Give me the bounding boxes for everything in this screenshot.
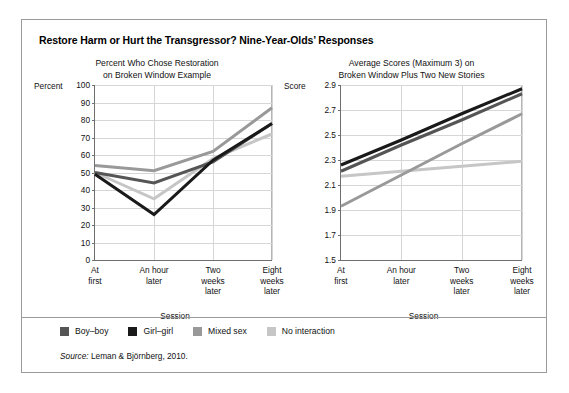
y-axis-tick: 30 [81, 203, 95, 213]
x-axis-tick-line: later [436, 286, 488, 297]
legend-label: Boy–boy [75, 326, 108, 336]
plot-area-right: 1.51.71.92.12.32.52.72.9AtfirstAn hourla… [340, 85, 522, 261]
gridline-vertical [522, 85, 523, 260]
y-axis-label-right: Score [284, 81, 306, 91]
x-axis-tick-line: Two [436, 265, 488, 276]
x-axis-tick-line: Eight [496, 265, 548, 276]
y-axis-tick: 80 [81, 115, 95, 125]
series-line [341, 161, 522, 176]
x-axis-tick-line: later [496, 286, 548, 297]
x-axis-tick: Atfirst [315, 260, 367, 286]
chart-title-right-line1: Average Scores (Maximum 3) on [284, 58, 539, 70]
y-axis-tick: 100 [76, 80, 95, 90]
y-axis-tick: 40 [81, 185, 95, 195]
y-axis-tick: 60 [81, 150, 95, 160]
legend-label: No interaction [282, 326, 335, 336]
x-axis-tick-line: An hour [375, 265, 427, 276]
legend-swatch-icon [193, 327, 202, 336]
gridline-vertical [272, 85, 273, 260]
x-axis-tick-line: later [128, 276, 180, 287]
y-axis-tick: 90 [81, 98, 95, 108]
x-axis-tick-line: At [69, 265, 121, 276]
y-axis-label-left: Percent [34, 81, 63, 91]
source-text: Leman & Björnberg, 2010. [91, 351, 188, 361]
y-axis-tick: 2.5 [324, 130, 341, 140]
figure-frame: Restore Harm or Hurt the Transgressor? N… [21, 19, 547, 373]
figure-title: Restore Harm or Hurt the Transgressor? N… [39, 34, 373, 46]
legend-item: Girl–girl [128, 326, 173, 336]
source-note: Source: Leman & Björnberg, 2010. [60, 351, 188, 361]
x-axis-tick: Atfirst [69, 260, 121, 286]
plot-inner-left: 0102030405060708090100AtfirstAn hourlate… [95, 85, 272, 260]
y-axis-tick: 1.7 [324, 230, 341, 240]
x-axis-tick-line: Two [187, 265, 239, 276]
source-prefix: Source: [60, 351, 89, 361]
series-line [95, 124, 272, 184]
legend-divider [22, 317, 546, 318]
plot-area-left: 0102030405060708090100AtfirstAn hourlate… [94, 85, 272, 261]
y-axis-tick: 2.3 [324, 155, 341, 165]
y-axis-tick: 50 [81, 168, 95, 178]
chart-title-right: Average Scores (Maximum 3) on Broken Win… [284, 58, 539, 81]
x-axis-tick: Eightweekslater [246, 260, 298, 297]
y-axis-tick: 2.1 [324, 180, 341, 190]
legend-swatch-icon [128, 327, 137, 336]
x-axis-tick-line: At [315, 265, 367, 276]
x-axis-tick: Twoweekslater [436, 260, 488, 297]
chart-title-left: Percent Who Chose Restoration on Broken … [32, 58, 282, 81]
x-axis-tick: An hourlater [375, 260, 427, 286]
legend-label: Mixed sex [208, 326, 247, 336]
legend-swatch-icon [267, 327, 276, 336]
legend-swatch-icon [60, 327, 69, 336]
chart-title-right-line2: Broken Window Plus Two New Stories [284, 70, 539, 82]
x-axis-tick: An hourlater [128, 260, 180, 286]
y-axis-tick: 20 [81, 220, 95, 230]
y-axis-tick: 70 [81, 133, 95, 143]
y-axis-tick: 1.9 [324, 205, 341, 215]
series-layer [95, 85, 272, 260]
x-axis-tick-line: later [375, 276, 427, 287]
x-axis-tick-line: An hour [128, 265, 180, 276]
x-axis-tick-line: later [246, 286, 298, 297]
x-axis-label-right: Session [296, 311, 551, 321]
chart-title-left-line1: Percent Who Chose Restoration [32, 58, 282, 70]
figure-screenshot: Restore Harm or Hurt the Transgressor? N… [0, 0, 569, 393]
legend-item: No interaction [267, 326, 335, 336]
chart-title-left-line2: on Broken Window Example [32, 70, 282, 82]
x-axis-tick-line: Eight [246, 265, 298, 276]
x-axis-tick-line: weeks [246, 276, 298, 287]
x-axis-tick-line: weeks [496, 276, 548, 287]
y-axis-tick: 2.9 [324, 80, 341, 90]
x-axis-tick-line: weeks [436, 276, 488, 287]
y-axis-tick: 2.7 [324, 105, 341, 115]
x-axis-tick: Eightweekslater [496, 260, 548, 297]
y-axis-tick: 10 [81, 238, 95, 248]
plot-inner-right: 1.51.71.92.12.32.52.72.9AtfirstAn hourla… [341, 85, 522, 260]
series-layer [341, 85, 522, 260]
legend-item: Mixed sex [193, 326, 247, 336]
legend-label: Girl–girl [143, 326, 173, 336]
x-axis-tick-line: first [315, 276, 367, 287]
x-axis-label-left: Session [50, 311, 300, 321]
x-axis-tick-line: weeks [187, 276, 239, 287]
legend-item: Boy–boy [60, 326, 108, 336]
legend: Boy–boyGirl–girlMixed sexNo interaction [60, 326, 335, 336]
x-axis-tick-line: later [187, 286, 239, 297]
x-axis-tick: Twoweekslater [187, 260, 239, 297]
x-axis-tick-line: first [69, 276, 121, 287]
